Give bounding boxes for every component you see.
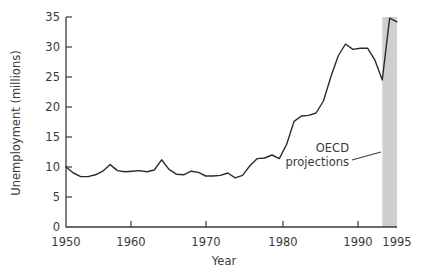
ytick-label-5: 5 [53, 190, 60, 204]
ytick-label-0: 0 [53, 220, 60, 234]
annotation-label-line1: OECD [316, 141, 349, 155]
xtick-label-1980: 1980 [268, 235, 297, 249]
ytick-label-20: 20 [45, 100, 60, 114]
unemployment-line-chart: 35 30 25 20 15 10 5 0 1950 1960 1970 198… [0, 0, 425, 273]
annotation-label-line2: projections [286, 155, 349, 169]
y-axis-title: Unemployment (millions) [9, 50, 23, 195]
xtick-label-1970: 1970 [191, 235, 220, 249]
projection-shaded-band [382, 17, 397, 227]
xtick-label-1995: 1995 [382, 235, 411, 249]
xtick-label-1950: 1950 [51, 235, 80, 249]
ytick-label-25: 25 [45, 70, 60, 84]
ytick-label-15: 15 [45, 130, 60, 144]
ytick-label-35: 35 [45, 10, 60, 24]
ytick-label-10: 10 [45, 160, 60, 174]
x-axis-ticks [131, 221, 358, 227]
xtick-label-1990: 1990 [343, 235, 372, 249]
axis-lines [66, 17, 397, 227]
annotation-leader-line [352, 152, 381, 160]
chart-canvas: 35 30 25 20 15 10 5 0 1950 1960 1970 198… [0, 0, 425, 273]
ytick-label-30: 30 [45, 40, 60, 54]
xtick-label-1960: 1960 [116, 235, 145, 249]
x-axis-title: Year [211, 254, 237, 268]
